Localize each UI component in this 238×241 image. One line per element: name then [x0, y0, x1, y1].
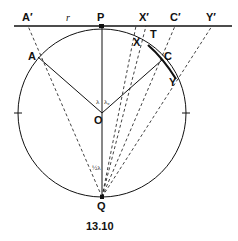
angle-lambda: λ: [96, 98, 100, 106]
label-C: C: [164, 50, 172, 62]
label-P: P: [97, 11, 104, 23]
label-X: X: [133, 36, 141, 48]
line-QX: [102, 26, 136, 197]
line-QX-prime: [102, 26, 146, 197]
line-QY-prime: [102, 26, 212, 197]
point-P-marker: [99, 24, 104, 28]
label-r: r: [66, 12, 70, 23]
point-Q-marker: [100, 195, 104, 199]
label-A: A: [28, 50, 36, 62]
figure-caption: 13.10: [86, 220, 114, 232]
label-C-prime: C′: [170, 11, 181, 23]
radius-OA: [38, 57, 102, 113]
label-Y-prime: Y′: [206, 11, 216, 23]
label-X-prime: X′: [139, 11, 149, 23]
geometry-diagram: A′ r P X′ C′ Y′ A X T C Y O Q λ λc ½λ 13…: [0, 0, 238, 241]
line-QA-prime: [28, 26, 102, 197]
angle-half-lambda: ½λ: [92, 164, 101, 172]
label-Y: Y: [169, 76, 177, 88]
angle-lambda-c: λc: [104, 98, 110, 106]
label-T: T: [150, 28, 157, 40]
label-Q: Q: [97, 200, 106, 212]
radius-OC: [102, 60, 162, 113]
label-O: O: [94, 114, 103, 126]
label-A-prime: A′: [22, 11, 33, 23]
